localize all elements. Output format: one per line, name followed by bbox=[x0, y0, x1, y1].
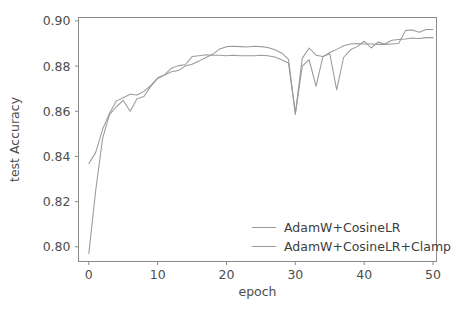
x-tick-label-1: 10 bbox=[150, 267, 166, 282]
y-tick-label-2: 0.84 bbox=[43, 149, 71, 164]
y-axis-title: test Accuracy bbox=[7, 96, 22, 182]
y-tick-label-4: 0.88 bbox=[43, 59, 71, 74]
x-axis-tick-labels: 01020304050 bbox=[85, 267, 441, 282]
x-tick-label-2: 20 bbox=[219, 267, 235, 282]
y-axis-ticks bbox=[75, 21, 79, 247]
y-axis-tick-labels: 0.800.820.840.860.880.90 bbox=[43, 13, 71, 254]
series-line-1 bbox=[89, 38, 433, 164]
y-tick-label-5: 0.90 bbox=[43, 13, 71, 28]
y-tick-label-3: 0.86 bbox=[43, 104, 71, 119]
x-tick-label-0: 0 bbox=[85, 267, 93, 282]
figure-canvas: 0.800.820.840.860.880.90 01020304050 epo… bbox=[0, 0, 462, 315]
x-tick-label-3: 30 bbox=[287, 267, 303, 282]
legend-label-0: AdamW+CosineLR bbox=[284, 220, 401, 235]
legend: AdamW+CosineLR AdamW+CosineLR+Clamp bbox=[252, 220, 451, 254]
legend-label-1: AdamW+CosineLR+Clamp bbox=[284, 239, 451, 254]
x-tick-label-5: 50 bbox=[425, 267, 441, 282]
y-tick-label-0: 0.80 bbox=[43, 239, 71, 254]
x-axis-title: epoch bbox=[238, 284, 276, 299]
x-tick-label-4: 40 bbox=[356, 267, 372, 282]
y-tick-label-1: 0.82 bbox=[43, 194, 71, 209]
x-axis-ticks bbox=[89, 262, 433, 266]
line-chart: 0.800.820.840.860.880.90 01020304050 epo… bbox=[0, 0, 462, 315]
